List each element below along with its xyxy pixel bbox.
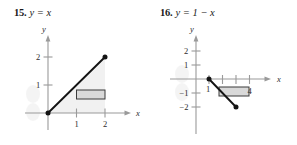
problem-15: 15.y = x: [0, 0, 150, 145]
y-axis-label: y: [189, 24, 194, 34]
exercise-page: 15.y = x: [0, 0, 297, 145]
x-axis-arrowhead: [125, 111, 132, 116]
x-axis-arrowhead: [265, 77, 272, 82]
approximating-rectangle: [77, 90, 106, 99]
y-tick-label-neg2: −2: [179, 102, 188, 112]
y-axis-label: y: [41, 24, 46, 34]
endpoint-dot-origin: [46, 111, 51, 116]
y-tick-label-neg1: −1: [179, 88, 188, 98]
page-watermark: [26, 85, 40, 121]
problem-16-plot: y x 1 4 2 1 −1 −2: [150, 22, 297, 145]
endpoint-dot-upper: [103, 55, 108, 60]
y-tick-label-2: 2: [36, 52, 40, 62]
y-axis-arrowhead: [46, 35, 51, 42]
x-tick-label-1: 1: [74, 119, 78, 129]
x-tick-label-1: 1: [206, 84, 210, 94]
y-tick-label-pos2: 2: [184, 46, 188, 56]
y-axis-arrowhead: [194, 35, 199, 42]
y-tick-label-pos1: 1: [184, 60, 188, 70]
endpoint-dot-lower: [234, 105, 239, 110]
x-tick-label-4: 4: [247, 86, 252, 96]
x-tick-label-2: 2: [103, 119, 107, 129]
problem-15-equation: y = x: [30, 7, 52, 18]
problem-15-graph: y x 1 2 1 2: [0, 22, 150, 145]
problem-15-plot: y x 1 2 1 2: [0, 22, 150, 145]
x-axis-label: x: [135, 108, 140, 118]
problem-16-number: 16.: [160, 7, 173, 18]
endpoint-dot-upper: [207, 77, 212, 82]
x-axis-label: x: [276, 74, 281, 84]
problem-15-header: 15.y = x: [14, 8, 51, 19]
problem-16-header: 16.y = 1 − x: [160, 8, 215, 19]
y-tick-label-1: 1: [36, 80, 40, 90]
problem-16-equation: y = 1 − x: [176, 7, 215, 18]
problem-16-graph: y x 1 4 2 1 −1 −2: [150, 22, 297, 145]
problem-15-number: 15.: [14, 7, 27, 18]
problem-16: 16.y = 1 − x: [150, 0, 297, 145]
